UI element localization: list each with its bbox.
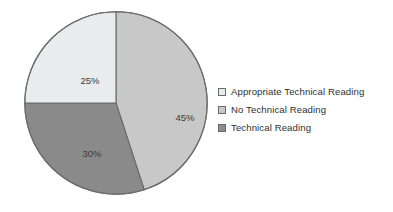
legend-swatch-icon	[218, 124, 226, 132]
chart-legend: Appropriate Technical Reading No Technic…	[218, 84, 390, 138]
pie-data-label-45: 45%	[175, 112, 195, 123]
legend-item-label: No Technical Reading	[231, 104, 326, 115]
pie-chart-svg: 45% 30% 25%	[24, 11, 208, 195]
legend-swatch-icon	[218, 88, 226, 96]
legend-item-label: Appropriate Technical Reading	[231, 86, 364, 97]
legend-item-label: Technical Reading	[231, 122, 311, 133]
pie-data-label-30: 30%	[82, 148, 102, 159]
legend-swatch-icon	[218, 106, 226, 114]
legend-item-no-technical-reading[interactable]: No Technical Reading	[218, 102, 390, 117]
pie-slice-appropriate-technical-reading[interactable]	[25, 12, 116, 103]
legend-item-appropriate-technical-reading[interactable]: Appropriate Technical Reading	[218, 84, 390, 99]
pie-data-label-25: 25%	[80, 75, 100, 86]
pie-slices	[25, 12, 207, 194]
pie-chart-figure: 45% 30% 25% Appropriate Technical Readin…	[0, 0, 393, 212]
legend-item-technical-reading[interactable]: Technical Reading	[218, 120, 390, 135]
pie-chart-plot-area: 45% 30% 25%	[24, 11, 208, 195]
